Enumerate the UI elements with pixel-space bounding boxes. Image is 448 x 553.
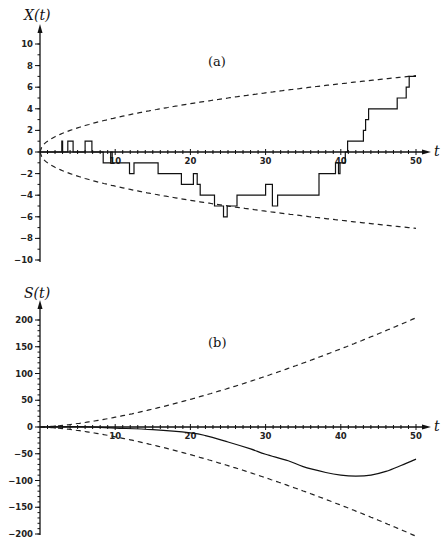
upper-bound-curve-a [40, 76, 416, 152]
x-tick-label: 30 [260, 431, 272, 441]
y-tick-labels-b: 200150100500−50−100−150−200 [8, 315, 40, 539]
x-tick-label: 40 [335, 431, 347, 441]
y-axis-title-a: X(t) [23, 7, 51, 23]
y-tick-label: 10 [21, 39, 33, 49]
integrated-walk-line [40, 427, 416, 477]
x-axis-arrow-b [422, 425, 431, 430]
y-tick-label: 200 [15, 315, 33, 325]
y-tick-label: −6 [20, 212, 33, 222]
lower-bound-curve-b [40, 427, 416, 536]
y-tick-labels-a: 1086420−2−4−6−8−10 [14, 39, 40, 265]
x-tick-labels-a: 1020304050 [109, 156, 422, 166]
y-axis-arrow-a [38, 24, 43, 33]
x-tick-label: 50 [410, 431, 422, 441]
y-tick-label: −100 [8, 476, 33, 486]
y-tick-label: −8 [20, 233, 33, 243]
y-tick-label: 6 [27, 82, 33, 92]
y-tick-label: −150 [8, 502, 33, 512]
y-axis-arrow-b [38, 300, 43, 309]
x-tick-label: 20 [184, 156, 196, 166]
x-tick-labels-b: 1020304050 [109, 431, 422, 441]
lower-bound-curve-a [40, 152, 416, 228]
x-axis-title-b: t [434, 418, 440, 434]
y-tick-label: 100 [15, 369, 33, 379]
y-tick-label: −10 [14, 255, 33, 265]
panel-b: 200150100500−50−100−150−200 1020304050 S… [8, 285, 440, 539]
figure: 1086420−2−4−6−8−10 1020304050 X(t) t (a)… [0, 0, 448, 553]
x-tick-label: 10 [109, 431, 121, 441]
x-tick-label: 30 [260, 156, 272, 166]
y-tick-label: 8 [27, 61, 33, 71]
y-tick-label: 0 [27, 422, 33, 432]
upper-bound-curve-b [40, 318, 416, 427]
y-axis-title-b: S(t) [24, 285, 50, 301]
y-tick-label: −4 [20, 190, 33, 200]
panel-label-b: (b) [208, 335, 226, 350]
y-tick-label: −50 [14, 449, 33, 459]
x-axis-title-a: t [434, 143, 440, 159]
y-tick-label: 2 [27, 125, 33, 135]
y-tick-label: 4 [27, 104, 33, 114]
y-tick-label: 0 [27, 147, 33, 157]
y-tick-label: −200 [8, 529, 33, 539]
x-axis-arrow-a [422, 150, 431, 155]
y-tick-label: 50 [21, 395, 33, 405]
panel-label-a: (a) [208, 54, 226, 69]
panel-a: 1086420−2−4−6−8−10 1020304050 X(t) t (a) [14, 7, 440, 265]
y-tick-label: 150 [15, 342, 33, 352]
x-tick-label: 50 [410, 156, 422, 166]
y-tick-label: −2 [20, 169, 33, 179]
